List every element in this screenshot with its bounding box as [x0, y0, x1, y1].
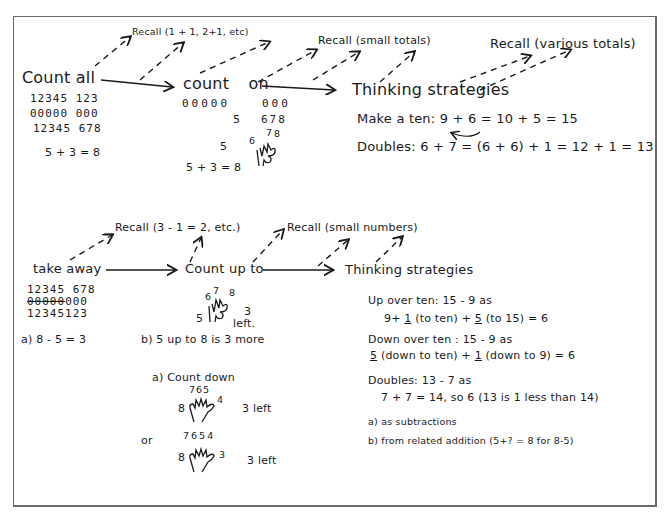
count-on-finger-7: 7: [266, 128, 272, 138]
hand-icon-count-down-2: [186, 444, 218, 474]
strategy-label: Doubles:: [357, 139, 416, 154]
count-all-equation: 5 + 3 = 8: [45, 147, 100, 158]
count-on-hand-start: 5: [220, 141, 227, 152]
sub-strategy-up-over-ten: Up over ten: 15 - 9 as: [368, 295, 492, 306]
sub-strategy-down-over-ten-detail: 5 (down to ten) + 1 (down to 9) = 6: [370, 350, 575, 361]
detail-underlined: 5: [475, 312, 482, 325]
hand-icon-count-up: [206, 294, 232, 324]
detail-part: 9+: [384, 312, 404, 325]
recall-label-2: Recall (small totals): [318, 35, 431, 46]
hand-icon-count-on: [254, 138, 280, 168]
detail-part: (to ten) +: [412, 312, 475, 325]
diagram-frame: [13, 16, 657, 507]
detail-part: (to 15) = 6: [482, 312, 548, 325]
count-on-five: 5: [233, 114, 240, 125]
detail-part: (down to ten) +: [377, 349, 474, 362]
sub-strategy-up-over-ten-detail: 9+ 1 (to ten) + 5 (to 15) = 6: [384, 313, 548, 324]
count-all-row1: 12345 123: [30, 93, 99, 104]
detail-underlined: 1: [475, 349, 482, 362]
take-away-row2: 00000000: [27, 296, 88, 307]
count-up-result-number: 3: [244, 306, 251, 317]
count-on-dots-right: 000: [262, 98, 291, 109]
recall-label-1: Recall (1 + 1, 2+1, etc): [132, 27, 249, 37]
count-on-678: 678: [261, 114, 287, 125]
hand-icon-count-down-1: [186, 394, 218, 424]
strategy-label: Make a ten:: [357, 111, 435, 126]
sub-note-a: a) as subtractions: [368, 417, 457, 427]
stage-thinking-strategies-add: Thinking strategies: [352, 82, 509, 98]
count-up-hand-start: 5: [196, 313, 203, 324]
add-strategy-doubles: Doubles: 6 + 7 = (6 + 6) + 1 = 12 + 1 = …: [357, 140, 654, 153]
count-down-v2-right: 3: [219, 450, 225, 460]
count-down-title: a) Count down: [152, 372, 235, 383]
take-away-row1: 12345 678: [27, 284, 96, 295]
detail-underlined: 1: [404, 312, 411, 325]
recall-label-sub-1: Recall (3 - 1 = 2, etc.): [115, 222, 240, 233]
count-on-equation: 5 + 3 = 8: [186, 162, 241, 173]
take-away-row3: 12345123: [27, 308, 88, 319]
count-down-v2-result: 3 left: [247, 455, 277, 466]
add-strategy-make-ten: Make a ten: 9 + 6 = 10 + 5 = 15: [357, 112, 578, 125]
stage-count-on: count on: [183, 76, 269, 92]
sub-strategy-down-over-ten: Down over ten : 15 - 9 as: [368, 334, 512, 345]
strategy-expression: 9 + 6 = 10 + 5 = 15: [440, 111, 578, 126]
take-away-caption: a) 8 - 5 = 3: [21, 334, 86, 345]
sub-strategy-doubles-detail: 7 + 7 = 14, so 6 (13 is 1 less than 14): [381, 392, 599, 403]
recall-label-3: Recall (various totals): [490, 37, 636, 50]
count-down-v2-left: 8: [178, 452, 185, 463]
count-all-row2: 00000 000: [30, 108, 99, 119]
stage-count-all: Count all: [22, 70, 95, 86]
count-down-v2-top: 7654: [183, 431, 215, 441]
stage-count-up-to: Count up to: [185, 262, 264, 275]
recall-label-sub-2: Recall (small numbers): [287, 222, 418, 233]
sub-strategy-doubles: Doubles: 13 - 7 as: [368, 375, 471, 386]
count-down-v1-result: 3 left: [242, 403, 272, 414]
count-up-result-word: left.: [233, 318, 255, 329]
stage-thinking-strategies-sub: Thinking strategies: [345, 263, 474, 276]
count-down-or: or: [141, 435, 153, 446]
count-down-v1-left: 8: [178, 403, 185, 414]
sub-note-b: b) from related addition (5+? = 8 for 8-…: [368, 436, 574, 446]
count-up-caption: b) 5 up to 8 is 3 more: [141, 334, 264, 345]
count-on-dots-left: 00000: [182, 98, 230, 109]
count-all-row3: 12345 678: [33, 123, 102, 134]
detail-part: (down to 9) = 6: [482, 349, 575, 362]
strategy-expression: 6 + 7 = (6 + 6) + 1 = 12 + 1 = 13: [420, 139, 654, 154]
stage-take-away: take away: [33, 262, 101, 275]
